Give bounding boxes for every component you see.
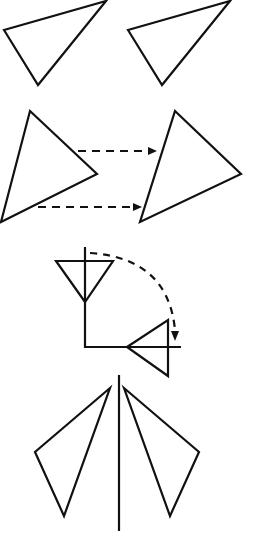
triangle-left [4, 1, 106, 85]
panel-reflection [35, 375, 199, 531]
reflected-triangle [124, 388, 199, 516]
rotation-arc [90, 253, 175, 330]
panel-translation [1, 111, 241, 222]
panel-identical-triangles [4, 1, 230, 85]
translated-triangle [140, 111, 241, 222]
transformations-diagram [0, 0, 257, 551]
triangle-right [128, 1, 230, 85]
arrowhead-icon [148, 147, 157, 155]
panel-rotation [56, 247, 181, 376]
arrowhead-icon [133, 203, 142, 211]
original-triangle [1, 111, 97, 222]
original-triangle [35, 388, 110, 516]
arrowhead-icon [171, 331, 179, 341]
